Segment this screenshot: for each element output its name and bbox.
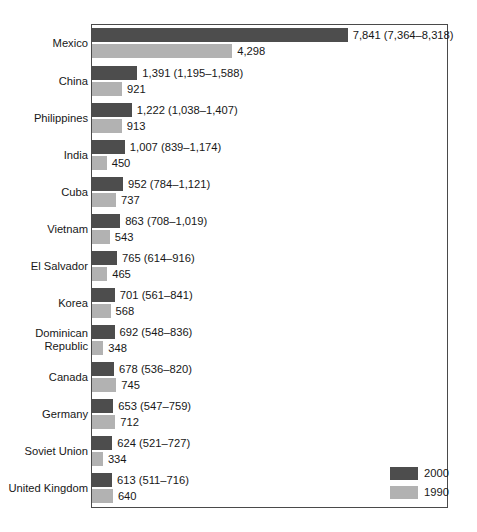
caption-strip (0, 520, 477, 532)
category-label: Cuba (0, 186, 88, 199)
category-label: Mexico (0, 37, 88, 50)
category-label: Vietnam (0, 223, 88, 236)
category-label: Soviet Union (0, 445, 88, 458)
legend-label-1990: 1990 (424, 484, 449, 500)
category-label: Philippines (0, 112, 88, 125)
category-label: Dominican Republic (0, 327, 88, 353)
category-label: Canada (0, 371, 88, 384)
legend-label-2000: 2000 (424, 465, 449, 481)
category-label: El Salvador (0, 260, 88, 273)
category-label: India (0, 149, 88, 162)
legend-swatch-2000-icon (390, 467, 418, 480)
category-label: Germany (0, 408, 88, 421)
legend-item-1990: 1990 (390, 483, 448, 502)
bar-chart: Mexico7,841 (7,364–8,318)4,298China1,391… (0, 0, 477, 532)
legend-item-2000: 2000 (390, 464, 448, 483)
plot-area-frame (91, 24, 448, 508)
category-label: United Kingdom (0, 482, 88, 495)
category-label: Korea (0, 297, 88, 310)
category-label: China (0, 75, 88, 88)
chart-legend: 2000 1990 (390, 464, 448, 502)
legend-swatch-1990-icon (390, 486, 418, 499)
